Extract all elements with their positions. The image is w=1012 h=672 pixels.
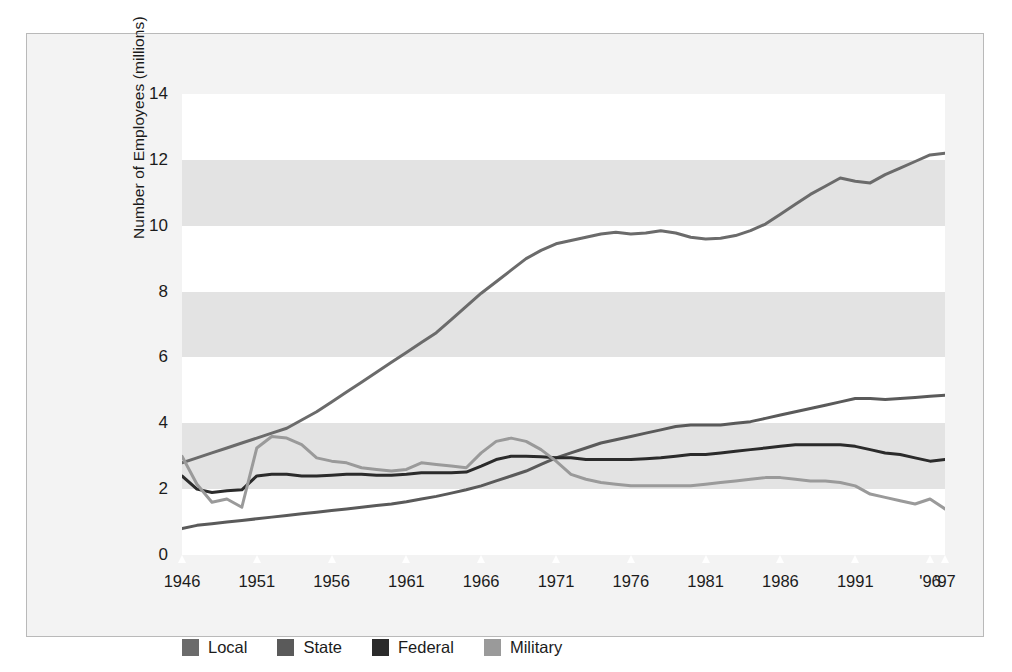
x-tick-mark [477, 555, 485, 563]
x-tick-label: 1981 [687, 572, 724, 591]
x-tick-label: 1946 [164, 572, 201, 591]
x-tick-mark [328, 555, 336, 563]
x-tick-mark [178, 555, 186, 563]
y-tick-label: 4 [159, 413, 168, 433]
x-tick-label: 1991 [837, 572, 874, 591]
plot-area: 14121086420 1946195119561961196619711976… [182, 94, 945, 555]
y-tick-label: 0 [159, 545, 168, 565]
series-line-state [182, 395, 945, 528]
x-tick-mark [851, 555, 859, 563]
legend-item-federal[interactable]: Federal [372, 638, 454, 657]
x-tick-label: 1971 [538, 572, 575, 591]
legend-swatch-icon [372, 639, 389, 656]
y-tick-label: 2 [159, 479, 168, 499]
legend-label: State [303, 638, 342, 657]
y-tick-label: 10 [149, 216, 168, 236]
legend-label: Federal [398, 638, 454, 657]
series-line-local [182, 153, 945, 463]
x-tick-mark [776, 555, 784, 563]
x-tick-label: 1966 [463, 572, 500, 591]
x-tick-label: 1976 [612, 572, 649, 591]
legend-item-local[interactable]: Local [182, 638, 247, 657]
legend-item-state[interactable]: State [277, 638, 342, 657]
y-tick-label: 14 [149, 84, 168, 104]
chart-legend: LocalStateFederalMilitary [182, 638, 562, 657]
series-lines [182, 94, 945, 555]
y-tick-label: 8 [159, 282, 168, 302]
chart-page: 14121086420 1946195119561961196619711976… [0, 0, 1012, 672]
x-tick-label: '97 [934, 572, 956, 591]
legend-label: Military [510, 638, 562, 657]
legend-item-military[interactable]: Military [484, 638, 562, 657]
y-tick-label: 6 [159, 347, 168, 367]
x-tick-label: 1956 [313, 572, 350, 591]
legend-swatch-icon [484, 639, 501, 656]
legend-swatch-icon [182, 639, 199, 656]
x-tick-mark [941, 555, 949, 563]
legend-label: Local [208, 638, 247, 657]
x-tick-label: 1961 [388, 572, 425, 591]
x-tick-label: 1951 [238, 572, 275, 591]
legend-swatch-icon [277, 639, 294, 656]
chart-frame: 14121086420 1946195119561961196619711976… [26, 33, 984, 637]
x-tick-mark [552, 555, 560, 563]
x-tick-mark [253, 555, 261, 563]
y-axis-label: Number of Employees (millions) [130, 0, 148, 239]
series-line-military [182, 436, 945, 508]
x-tick-mark [402, 555, 410, 563]
y-tick-label: 12 [149, 150, 168, 170]
x-tick-mark [702, 555, 710, 563]
x-tick-mark [926, 555, 934, 563]
x-tick-label: 1986 [762, 572, 799, 591]
x-tick-mark [627, 555, 635, 563]
